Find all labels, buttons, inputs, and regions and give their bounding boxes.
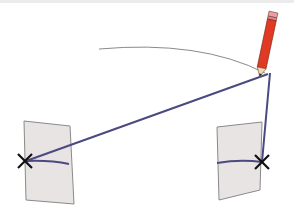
pencil-icon <box>255 11 278 77</box>
geometric-construction-diagram <box>0 0 294 214</box>
arc-curve <box>99 47 265 73</box>
right-radius-line <box>262 73 270 162</box>
